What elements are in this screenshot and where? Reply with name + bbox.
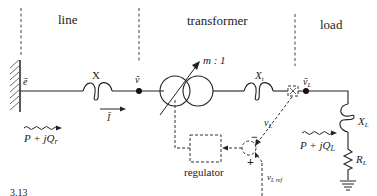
measurement-signal-line [255, 97, 292, 146]
measured-voltage-label: vL [264, 117, 272, 130]
current-arrow-icon [100, 107, 126, 112]
power-flow-source-arrow-icon [24, 126, 62, 131]
power-flow-source-label: P + jQr [23, 132, 58, 146]
power-flow-load-arrow-icon [302, 131, 337, 136]
circuit-diagram: line transformer load ẽ X ṽ Ī P + jQr [0, 0, 377, 196]
infinite-bus-icon [10, 60, 20, 112]
line-inductor-icon [83, 83, 112, 100]
plus-sign: + [247, 155, 254, 169]
junction-to-regulator-line [222, 146, 242, 151]
line-reactance-label: X [92, 69, 100, 81]
load-resistor-icon [344, 132, 352, 180]
load-reactance-label: XL [357, 115, 369, 129]
ground-icon [340, 181, 356, 190]
transformer-reactance-label: Xt [254, 69, 265, 83]
regulator-label: regulator [184, 166, 224, 178]
load-inductor-icon [340, 104, 354, 132]
voltage-sensor-icon [288, 86, 298, 96]
source-voltage-label: ẽ [23, 76, 28, 87]
reference-signal-line [255, 152, 262, 196]
turns-ratio-label: m : 1 [203, 54, 226, 66]
bus-voltage-label: ṽ [135, 74, 140, 85]
load-voltage-label: ṽL [303, 76, 311, 89]
transformer-icon [160, 61, 213, 115]
power-flow-load-label: P + jQL [299, 139, 335, 153]
section-load-label: load [320, 17, 343, 32]
minus-sign: − [251, 130, 258, 144]
transformer-inductor-icon [244, 83, 273, 100]
section-line-label: line [58, 12, 78, 27]
section-transformer-label: transformer [187, 13, 248, 28]
load-resistance-label: RL [355, 153, 367, 167]
current-label: Ī [106, 112, 112, 123]
caption-fragment: 3.13 [10, 187, 28, 196]
regulator-block [190, 135, 221, 162]
reference-voltage-label: vL ref [267, 172, 284, 183]
bus-node [136, 88, 142, 94]
